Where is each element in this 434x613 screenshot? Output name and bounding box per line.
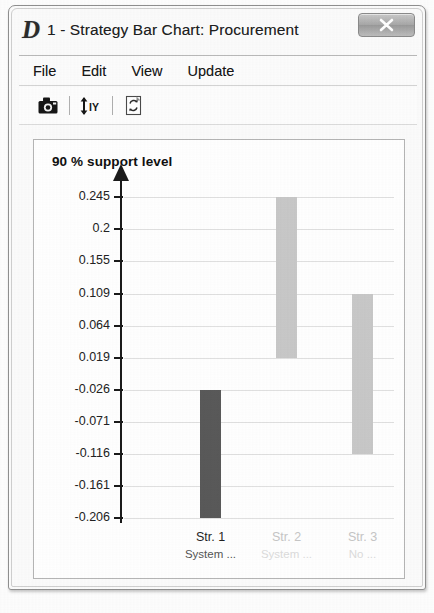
y-tick (114, 260, 123, 262)
y-tick (114, 196, 123, 198)
app-logo-icon: D (22, 17, 40, 42)
menu-item-edit[interactable]: Edit (81, 63, 106, 79)
y-axis-tick-label: -0.026 (48, 382, 110, 396)
y-axis-tick-label: 0.245 (48, 189, 110, 203)
scanned-page: D 1 - Strategy Bar Chart: Procurement Fi… (0, 0, 434, 613)
gridline (124, 518, 394, 519)
close-button[interactable] (358, 13, 415, 37)
y-axis-tick-label: 0.019 (48, 350, 110, 364)
x-axis-category-3: Str. 3 (330, 530, 395, 544)
x-axis-origin-tick (114, 517, 123, 519)
bar-1[interactable] (200, 390, 221, 518)
gridline (124, 486, 394, 487)
document-refresh-button[interactable] (121, 93, 147, 119)
menu-bar: File Edit View Update (19, 55, 417, 86)
x-axis-sublabel-1: System ... (174, 548, 247, 560)
y-tick (114, 453, 123, 455)
menu-item-update[interactable]: Update (188, 63, 235, 79)
y-tick (114, 389, 123, 391)
arrow-iy-button[interactable]: IY (78, 93, 104, 119)
window-title: 1 - Strategy Bar Chart: Procurement (47, 21, 299, 39)
title-bar: D 1 - Strategy Bar Chart: Procurement (13, 9, 423, 50)
arrow-iy-icon: IY (79, 96, 103, 116)
gridline (124, 197, 394, 198)
x-axis-sublabel-2: System ... (250, 548, 323, 560)
y-axis-tick-label: -0.161 (48, 478, 110, 492)
x-axis-sublabel-3: No ... (326, 548, 399, 560)
y-axis-tick-label: -0.116 (48, 446, 110, 460)
bar-3[interactable] (352, 294, 373, 454)
chart-panel: 90 % support level 0.2450.20.1550.1090.0… (33, 139, 405, 579)
gridline (124, 454, 394, 455)
y-tick (114, 421, 123, 423)
y-tick (114, 293, 123, 295)
x-axis-category-2: Str. 2 (254, 530, 319, 544)
y-axis-tick-label: 0.2 (48, 221, 110, 235)
gridline (124, 229, 394, 230)
y-tick (114, 485, 123, 487)
toolbar: IY (19, 87, 417, 125)
y-tick (114, 325, 123, 327)
toolbar-separator-2 (112, 96, 113, 115)
camera-button[interactable] (35, 93, 61, 119)
application-window: D 1 - Strategy Bar Chart: Procurement Fi… (8, 5, 426, 590)
y-axis-tick-label: -0.071 (48, 414, 110, 428)
x-axis-category-1: Str. 1 (178, 530, 243, 544)
close-icon (378, 18, 395, 32)
menu-item-file[interactable]: File (33, 63, 56, 79)
y-tick (114, 357, 123, 359)
toolbar-separator-1 (69, 96, 70, 115)
y-tick (114, 228, 123, 230)
y-axis-tick-label: -0.206 (48, 510, 110, 524)
y-axis-tick-label: 0.064 (48, 318, 110, 332)
bar-2[interactable] (276, 197, 297, 358)
bar-chart: 90 % support level 0.2450.20.1550.1090.0… (34, 140, 406, 580)
y-axis-tick-label: 0.155 (48, 253, 110, 267)
camera-icon (37, 96, 59, 115)
menu-item-view[interactable]: View (131, 63, 162, 79)
svg-text:IY: IY (89, 101, 99, 113)
document-refresh-icon (124, 95, 145, 116)
y-axis-tick-label: 0.109 (48, 286, 110, 300)
gridline (124, 261, 394, 262)
